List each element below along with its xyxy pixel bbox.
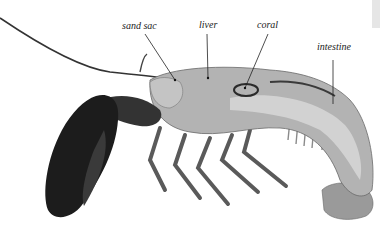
label-intestine: intestine [317, 41, 351, 52]
lobster-diagram: sand sac liver coral intestine [0, 0, 380, 228]
label-coral: coral [257, 19, 278, 30]
label-liver: liver [199, 19, 217, 30]
lobster-illustration [0, 0, 380, 228]
label-sand-sac: sand sac [122, 20, 157, 31]
